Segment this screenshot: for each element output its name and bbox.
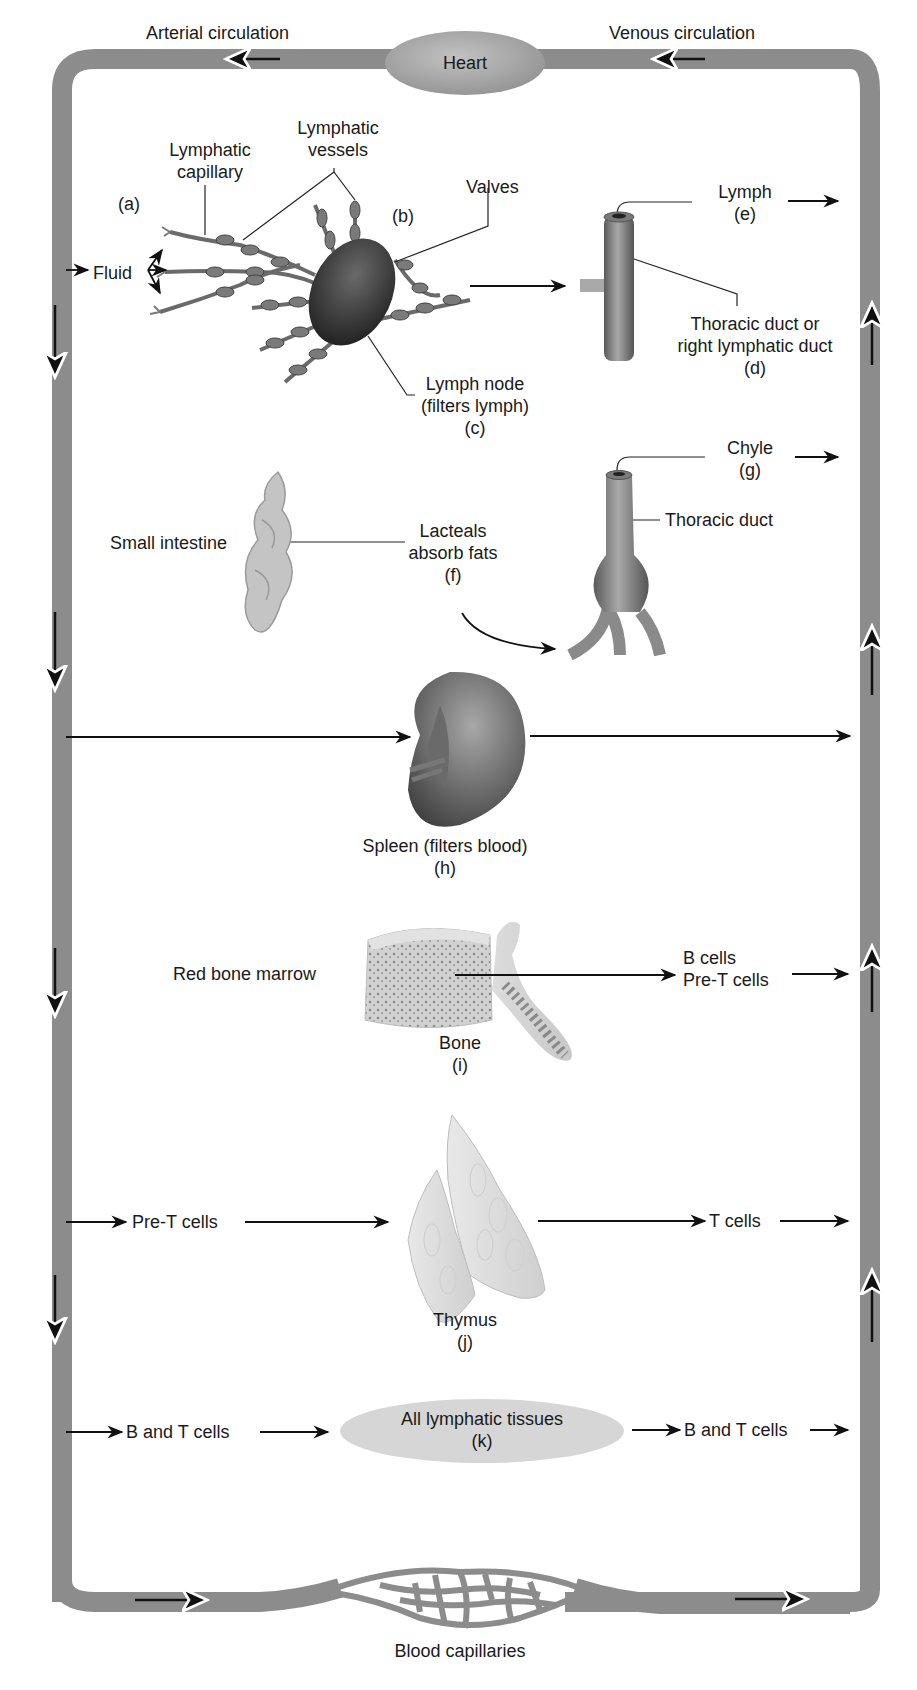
heart-label: Heart xyxy=(425,52,505,74)
capillary-bed xyxy=(330,1570,585,1628)
blood-capillaries-label: Blood capillaries xyxy=(380,1640,540,1662)
thoracic-or-right-duct-label: Thoracic duct or right lymphatic duct (d… xyxy=(650,313,860,379)
lymph-node-label: Lymph node (filters lymph) (c) xyxy=(400,373,550,439)
fluid-label: Fluid xyxy=(93,262,132,284)
thoracic-duct-label: Thoracic duct xyxy=(665,509,773,531)
small-intestine-label: Small intestine xyxy=(110,532,227,554)
lymph-node-shape xyxy=(292,224,412,359)
spleen-illustration xyxy=(408,672,525,827)
venous-circulation-label: Venous circulation xyxy=(609,22,755,44)
circulation-tube xyxy=(62,59,870,1604)
lacteals-arrow xyxy=(462,613,555,649)
thymus-illustration xyxy=(408,1115,545,1322)
arterial-circulation-label: Arterial circulation xyxy=(146,22,289,44)
lymph-e-label: Lymph (e) xyxy=(705,181,785,225)
lymphatic-capillary-label: Lymphatic capillary xyxy=(160,139,260,183)
chyle-g-label: Chyle (g) xyxy=(710,437,790,481)
lymphatic-system-diagram: Arterial circulation Venous circulation … xyxy=(0,0,917,1690)
small-intestine-illustration xyxy=(245,472,292,632)
bone-outputs-label: B cells Pre-T cells xyxy=(683,947,769,991)
all-lymphatic-tissues-label: All lymphatic tissues (k) xyxy=(362,1408,602,1452)
thymus-label: Thymus (j) xyxy=(425,1309,505,1353)
label-a: (a) xyxy=(118,193,140,215)
bone-label: Bone (i) xyxy=(430,1032,490,1076)
label-b: (b) xyxy=(392,205,414,227)
valves-label: Valves xyxy=(466,176,519,198)
lymphatic-duct-illustration xyxy=(580,212,634,361)
lymph-node-illustration xyxy=(150,201,470,382)
tube-flow-arrows xyxy=(55,59,872,1600)
red-bone-marrow-label: Red bone marrow xyxy=(173,963,316,985)
pre-t-cells-input-label: Pre-T cells xyxy=(132,1211,218,1233)
lymphatic-vessels-label: Lymphatic vessels xyxy=(293,117,383,161)
b-and-t-cells-output-label: B and T cells xyxy=(684,1419,787,1441)
spleen-label: Spleen (filters blood) (h) xyxy=(345,835,545,879)
t-cells-output-label: T cells xyxy=(709,1210,761,1232)
thoracic-duct-illustration xyxy=(570,471,660,656)
b-and-t-cells-input-label: B and T cells xyxy=(126,1421,229,1443)
lacteals-label: Lacteals absorb fats (f) xyxy=(398,520,508,586)
